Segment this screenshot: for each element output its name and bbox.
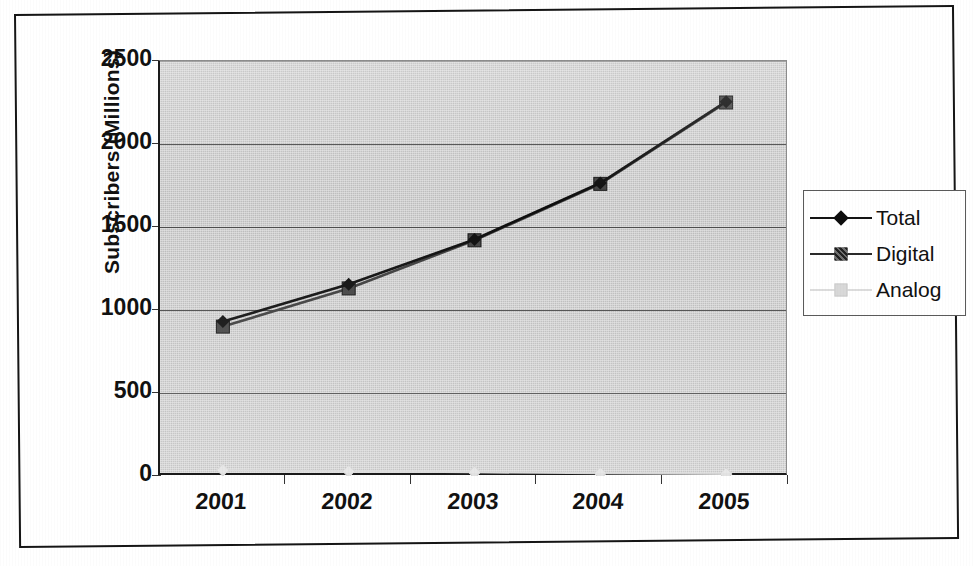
y-tick-label: 1500 [60,211,152,238]
y-tick-label: 2000 [60,128,152,155]
line-chart: Subscribers (Millions) 05001000150020002… [0,0,973,566]
legend-item-total[interactable]: Total [810,200,959,236]
data-point-marker [469,466,481,476]
y-tick-label: 2500 [60,45,152,72]
chart-legend: TotalDigitalAnalog [803,190,966,316]
x-tick-mark [661,475,662,484]
legend-key-icon [810,282,872,298]
y-tick-label: 1000 [60,294,152,321]
data-point-marker [720,468,732,476]
series-line [223,102,726,322]
legend-key-icon [810,246,872,262]
series-analog [217,464,732,476]
legend-key-icon [810,210,872,226]
legend-item-digital[interactable]: Digital [810,236,959,272]
y-tick-label: 500 [60,377,152,404]
series-layer [160,61,789,476]
legend-item-analog[interactable]: Analog [810,272,959,308]
x-tick-label: 2001 [165,488,277,515]
data-point-marker [343,465,355,476]
series-total [216,95,732,328]
legend-label: Total [876,206,920,230]
x-tick-mark [284,475,285,484]
x-tick-mark [787,475,788,484]
x-tick-label: 2004 [542,488,654,515]
y-axis-ticks: 05001000150020002500 [52,60,152,475]
data-point-marker [217,464,229,476]
legend-key-marker [835,284,848,297]
legend-key-marker [835,248,848,261]
x-tick-label: 2002 [291,488,403,515]
x-tick-label: 2005 [668,488,780,515]
plot-area [158,60,787,475]
y-tick-label: 0 [60,460,152,487]
data-point-marker [594,467,606,476]
legend-label: Digital [876,242,934,266]
x-tick-mark [535,475,536,484]
legend-key-marker [833,210,849,226]
series-line [223,103,726,327]
x-tick-label: 2003 [417,488,529,515]
x-tick-mark [410,475,411,484]
series-digital [216,96,732,333]
legend-label: Analog [876,278,941,302]
